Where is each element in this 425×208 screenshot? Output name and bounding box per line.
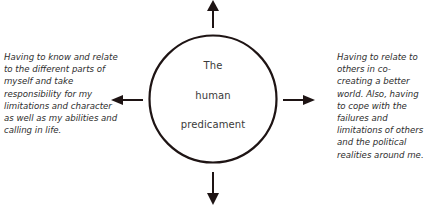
right-description: Having to relate to others in co-creatin… bbox=[337, 51, 425, 161]
center-label-line-2: human bbox=[163, 90, 263, 101]
up-arrow-icon bbox=[207, 0, 219, 28]
center-label-line-1: The bbox=[163, 60, 263, 71]
left-description: Having to know and relate to the differe… bbox=[4, 51, 122, 136]
down-arrow-icon bbox=[207, 172, 219, 205]
center-label-line-3: predicament bbox=[163, 119, 263, 130]
right-arrow-icon bbox=[283, 95, 315, 105]
